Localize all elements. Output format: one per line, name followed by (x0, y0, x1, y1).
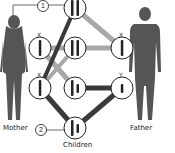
inheritance-diagram: X X X Y 1 2 Mother Father Children (0, 0, 175, 153)
father-y-tag: Y (119, 71, 123, 78)
chromosome-circles (29, 0, 133, 139)
mother-x-tag-top: X (37, 31, 41, 38)
father-x-tag: X (119, 31, 123, 38)
children-label: Children (63, 141, 92, 149)
inheritance-paths (40, 8, 122, 128)
mother-silhouette-icon (0, 15, 28, 120)
mother-label: Mother (3, 124, 28, 132)
father-label: Father (130, 124, 152, 132)
father-silhouette-icon (129, 7, 161, 120)
mother-x-tag-bottom: X (37, 71, 41, 78)
chromosomes (39, 0, 124, 136)
marker-2: 2 (35, 124, 47, 136)
marker-1: 1 (37, 0, 49, 12)
